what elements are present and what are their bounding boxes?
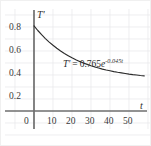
exponential-decay-chart: 0.8 0.6 0.4 0.2 0 10 20 30 40 50 T' t T'… <box>0 0 151 146</box>
y-tick-label: 0.8 <box>9 23 21 33</box>
equation-equals: = <box>70 59 79 69</box>
x-tick-label: 50 <box>123 117 133 127</box>
x-tick-label: 40 <box>104 117 114 127</box>
x-tick-label: 10 <box>47 117 57 127</box>
equation-coefficient: 0.765 <box>80 59 101 69</box>
y-tick-label: 0.6 <box>9 46 21 56</box>
y-axis-label: T' <box>37 10 45 20</box>
x-axis-label: t <box>140 101 143 111</box>
x-tick-label: 20 <box>66 117 76 127</box>
x-tick-label: 0 <box>24 117 29 127</box>
y-tick-label: 0.4 <box>9 69 21 79</box>
equation-exponent: -0.045t <box>105 57 123 64</box>
equation-annotation: T'=0.765e-0.045t <box>63 60 123 70</box>
y-tick-label: 0.2 <box>9 92 21 102</box>
x-tick-label: 30 <box>85 117 95 127</box>
